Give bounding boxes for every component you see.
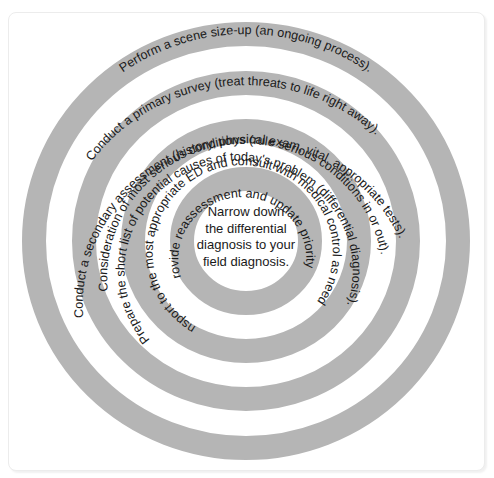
center-line-1: Narrow down	[196, 204, 296, 221]
center-line-4: field diagnosis.	[196, 254, 296, 271]
ring-label-1: Perform a scene size-up (an ongoing proc…	[117, 23, 376, 75]
center-label: Narrow down the differential diagnosis t…	[196, 204, 296, 270]
center-line-3: diagnosis to your	[196, 237, 296, 254]
center-line-2: the differential	[196, 221, 296, 238]
